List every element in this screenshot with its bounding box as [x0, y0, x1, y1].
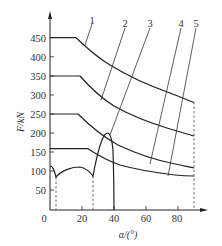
label-2: 2: [122, 18, 127, 29]
x-tick-0: 0: [41, 213, 46, 224]
leader-1: [85, 24, 92, 45]
label-4: 4: [178, 18, 184, 29]
y-tick-450: 450: [30, 33, 46, 44]
x-tick-40: 40: [109, 213, 120, 224]
x-axis-arrow: [200, 208, 208, 212]
curve-450: [50, 38, 194, 103]
y-tick-400: 400: [30, 52, 46, 63]
leader-3: [110, 28, 150, 135]
leader-2: [101, 28, 125, 100]
y-tick-100: 100: [30, 166, 46, 177]
x-tick-80: 80: [172, 213, 183, 224]
y-tick-200: 200: [30, 128, 46, 139]
chart: 450 400 350 300 250 200 150 100 50 0 20 …: [0, 0, 222, 246]
label-5: 5: [193, 18, 198, 29]
curve-350: [50, 76, 194, 136]
x-tick-20: 20: [77, 213, 88, 224]
label-1: 1: [89, 15, 94, 26]
label-3: 3: [147, 18, 152, 29]
y-tick-350: 350: [30, 71, 46, 82]
y-tick-300: 300: [30, 90, 46, 101]
y-tick-50: 50: [36, 185, 47, 196]
y-axis-label: F/kN: [15, 111, 26, 133]
load-curve: [50, 133, 114, 210]
y-tick-250: 250: [30, 109, 46, 120]
x-tick-60: 60: [141, 213, 152, 224]
y-axis-arrow: [48, 11, 52, 19]
x-axis-label: α/(°): [119, 229, 138, 241]
curve-250: [50, 114, 194, 168]
y-tick-150: 150: [30, 147, 46, 158]
x-ticks: [82, 206, 178, 210]
